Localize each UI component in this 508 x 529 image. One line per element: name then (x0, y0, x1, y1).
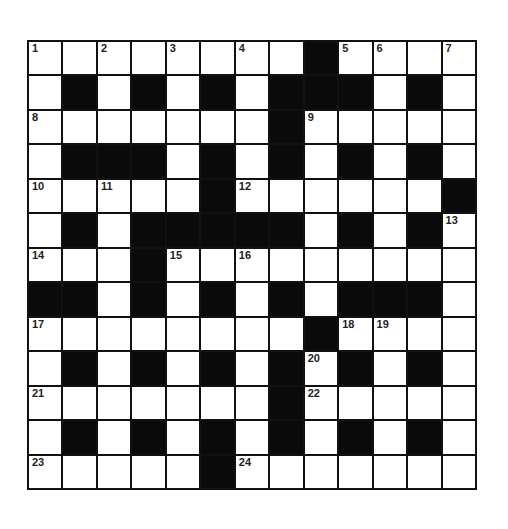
answer-cell[interactable] (443, 76, 475, 108)
answer-cell[interactable] (132, 456, 164, 488)
answer-cell[interactable] (305, 180, 337, 212)
answer-cell[interactable] (374, 249, 406, 281)
answer-cell[interactable] (201, 318, 233, 350)
answer-cell[interactable] (408, 456, 440, 488)
answer-cell[interactable] (305, 249, 337, 281)
answer-cell[interactable] (408, 42, 440, 74)
answer-cell[interactable] (63, 387, 95, 419)
answer-cell[interactable] (201, 387, 233, 419)
answer-cell[interactable]: 16 (236, 249, 268, 281)
answer-cell[interactable] (374, 214, 406, 246)
answer-cell[interactable] (236, 145, 268, 177)
answer-cell[interactable] (29, 76, 61, 108)
answer-cell[interactable] (443, 318, 475, 350)
answer-cell[interactable] (132, 111, 164, 143)
answer-cell[interactable]: 24 (236, 456, 268, 488)
answer-cell[interactable]: 4 (236, 42, 268, 74)
answer-cell[interactable] (167, 421, 199, 453)
answer-cell[interactable] (63, 111, 95, 143)
answer-cell[interactable] (374, 352, 406, 384)
answer-cell[interactable] (98, 214, 130, 246)
answer-cell[interactable] (374, 180, 406, 212)
answer-cell[interactable] (443, 387, 475, 419)
answer-cell[interactable] (339, 111, 371, 143)
answer-cell[interactable] (443, 421, 475, 453)
answer-cell[interactable] (236, 76, 268, 108)
answer-cell[interactable]: 5 (339, 42, 371, 74)
answer-cell[interactable] (408, 180, 440, 212)
answer-cell[interactable] (63, 180, 95, 212)
answer-cell[interactable] (443, 456, 475, 488)
answer-cell[interactable] (270, 42, 302, 74)
answer-cell[interactable]: 22 (305, 387, 337, 419)
answer-cell[interactable] (98, 76, 130, 108)
answer-cell[interactable]: 20 (305, 352, 337, 384)
answer-cell[interactable]: 6 (374, 42, 406, 74)
answer-cell[interactable] (374, 456, 406, 488)
answer-cell[interactable] (408, 387, 440, 419)
answer-cell[interactable] (167, 352, 199, 384)
answer-cell[interactable] (236, 318, 268, 350)
answer-cell[interactable]: 14 (29, 249, 61, 281)
answer-cell[interactable] (408, 111, 440, 143)
answer-cell[interactable]: 23 (29, 456, 61, 488)
answer-cell[interactable] (270, 318, 302, 350)
answer-cell[interactable] (167, 283, 199, 315)
answer-cell[interactable]: 3 (167, 42, 199, 74)
answer-cell[interactable] (374, 421, 406, 453)
answer-cell[interactable] (339, 456, 371, 488)
answer-cell[interactable] (167, 76, 199, 108)
answer-cell[interactable] (374, 145, 406, 177)
answer-cell[interactable] (374, 387, 406, 419)
answer-cell[interactable] (167, 318, 199, 350)
answer-cell[interactable] (374, 76, 406, 108)
answer-cell[interactable] (132, 387, 164, 419)
answer-cell[interactable]: 1 (29, 42, 61, 74)
answer-cell[interactable]: 19 (374, 318, 406, 350)
answer-cell[interactable] (305, 145, 337, 177)
answer-cell[interactable] (201, 42, 233, 74)
answer-cell[interactable] (339, 249, 371, 281)
answer-cell[interactable] (63, 456, 95, 488)
answer-cell[interactable]: 13 (443, 214, 475, 246)
answer-cell[interactable]: 17 (29, 318, 61, 350)
answer-cell[interactable] (29, 421, 61, 453)
answer-cell[interactable] (98, 318, 130, 350)
answer-cell[interactable] (270, 249, 302, 281)
answer-cell[interactable]: 10 (29, 180, 61, 212)
answer-cell[interactable] (408, 249, 440, 281)
answer-cell[interactable] (443, 249, 475, 281)
answer-cell[interactable] (443, 111, 475, 143)
answer-cell[interactable] (443, 145, 475, 177)
answer-cell[interactable] (167, 145, 199, 177)
answer-cell[interactable]: 15 (167, 249, 199, 281)
answer-cell[interactable] (374, 111, 406, 143)
answer-cell[interactable] (339, 387, 371, 419)
answer-cell[interactable] (305, 456, 337, 488)
answer-cell[interactable] (167, 387, 199, 419)
answer-cell[interactable] (236, 421, 268, 453)
answer-cell[interactable] (98, 387, 130, 419)
answer-cell[interactable] (167, 456, 199, 488)
answer-cell[interactable]: 18 (339, 318, 371, 350)
answer-cell[interactable] (98, 249, 130, 281)
answer-cell[interactable] (132, 318, 164, 350)
answer-cell[interactable] (236, 387, 268, 419)
answer-cell[interactable] (443, 352, 475, 384)
answer-cell[interactable]: 11 (98, 180, 130, 212)
answer-cell[interactable] (236, 111, 268, 143)
answer-cell[interactable] (63, 249, 95, 281)
answer-cell[interactable] (305, 283, 337, 315)
answer-cell[interactable] (29, 352, 61, 384)
answer-cell[interactable] (339, 180, 371, 212)
answer-cell[interactable]: 9 (305, 111, 337, 143)
answer-cell[interactable] (201, 249, 233, 281)
answer-cell[interactable] (98, 352, 130, 384)
answer-cell[interactable] (236, 352, 268, 384)
answer-cell[interactable] (270, 180, 302, 212)
answer-cell[interactable]: 21 (29, 387, 61, 419)
answer-cell[interactable] (305, 421, 337, 453)
answer-cell[interactable] (167, 111, 199, 143)
answer-cell[interactable] (98, 283, 130, 315)
answer-cell[interactable] (305, 214, 337, 246)
